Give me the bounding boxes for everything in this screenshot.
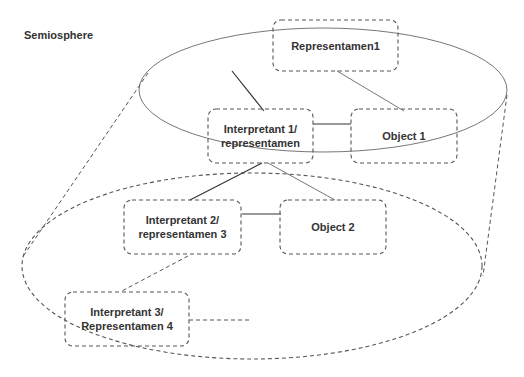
edge-int1-int2	[190, 163, 262, 200]
edge-int2-int3	[120, 256, 188, 292]
node-label-line1: Interpretant 3/	[90, 305, 163, 319]
node-interpretant1: Interpretant 1/ representamen	[208, 109, 313, 163]
node-label-line2: representamen 3	[138, 227, 226, 241]
edge-int1-obj2	[268, 163, 335, 200]
node-representamen1: Representamen1	[273, 20, 398, 71]
edge-rep1-int1	[232, 71, 264, 111]
node-label-line1: Interpretant 1/	[224, 122, 297, 136]
node-object1: Object 1	[351, 109, 457, 163]
node-label: Object 2	[311, 220, 354, 234]
node-interpretant3: Interpretant 3/ Representamen 4	[65, 292, 189, 346]
node-label-line2: representamen	[221, 136, 300, 150]
node-label-line2: Representamen 4	[81, 319, 173, 333]
node-interpretant2: Interpretant 2/ representamen 3	[124, 200, 241, 254]
semiosphere-title: Semiosphere	[24, 29, 93, 41]
node-label: Object 1	[382, 129, 425, 143]
cone-right-edge	[483, 95, 507, 276]
node-label-line1: Interpretant 2/	[146, 213, 219, 227]
node-object2: Object 2	[280, 200, 386, 254]
node-label: Representamen1	[291, 39, 380, 53]
edge-rep1-obj1	[337, 71, 404, 111]
semiosphere-diagram: Semiosphere Representamen1 Interpretant …	[0, 0, 524, 377]
